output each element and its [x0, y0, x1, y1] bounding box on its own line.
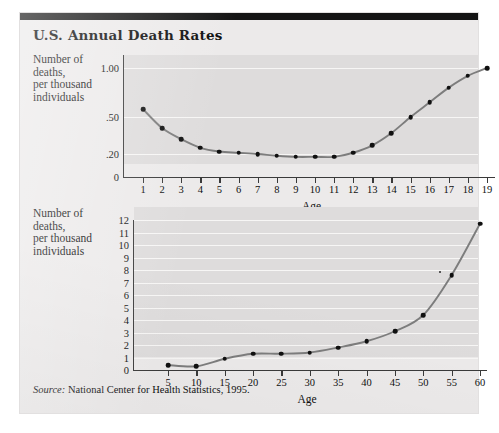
- bottom-chart-data-point-age-40: [364, 339, 369, 344]
- bottom-chart-data-point-age-20: [251, 351, 256, 356]
- bottom-chart-data-point-age-60: [478, 221, 483, 226]
- bottom-chart-data-point-age-45: [393, 329, 398, 334]
- bottom-chart-data-point-age-50: [421, 313, 426, 318]
- bottom-chart-data-point-age-15: [222, 356, 227, 361]
- bottom-chart-x-tick-60: [480, 371, 481, 376]
- scan-speck: [439, 271, 441, 273]
- source-text: National Center for Health Statistics, 1…: [65, 384, 249, 395]
- bottom-chart-data-point-age-35: [336, 345, 341, 350]
- bottom-chart-data-point-age-55: [449, 273, 454, 278]
- bottom-chart-overlay: 012345678910111251015202530354045505560A…: [20, 13, 478, 413]
- bottom-chart-data-point-age-10: [194, 364, 199, 369]
- figure-page: U.S. Annual Death Rates Number of deaths…: [0, 0, 499, 433]
- source-note: Source: National Center for Health Stati…: [33, 384, 250, 395]
- bottom-chart-data-point-age-30: [308, 350, 313, 355]
- bottom-chart-data-point-age-25: [279, 351, 284, 356]
- top-chart-data-point-age-19: [485, 66, 490, 71]
- bottom-chart-data-point-age-5: [166, 363, 171, 368]
- source-label: Source:: [33, 384, 65, 395]
- top-chart-x-tick-19: [487, 178, 488, 183]
- top-chart-x-label-19: 19: [482, 184, 493, 195]
- bottom-chart-series-line: [20, 13, 478, 413]
- figure-card: U.S. Annual Death Rates Number of deaths…: [20, 13, 478, 413]
